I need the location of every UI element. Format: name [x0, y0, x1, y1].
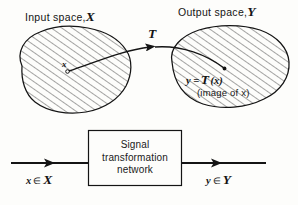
output-space-blob — [165, 18, 298, 116]
equation-lhs: y = — [186, 75, 199, 86]
output-equation: y =T(x) — [186, 71, 223, 88]
block-label-line-1: Signal — [121, 139, 150, 152]
image-of-caption: (image of x) — [197, 88, 250, 98]
block-label: Signal transformation network — [88, 130, 182, 186]
figure-canvas: Input space,X Output space,Y x T y =T(x)… — [0, 0, 298, 205]
input-space-blob — [10, 18, 140, 123]
equation-argument: (x) — [211, 75, 223, 86]
input-space-title-text: Input space, — [25, 11, 86, 23]
output-flow-variable: y — [206, 175, 211, 186]
block-label-line-3: network — [117, 164, 153, 177]
input-flow-label: x∈X — [26, 173, 52, 187]
mapping-operator-label: T — [148, 27, 156, 41]
equation-operator: T — [199, 72, 210, 87]
block-label-line-2: transformation — [102, 152, 168, 165]
input-point-marker — [66, 70, 70, 74]
input-space-title: Input space,X — [25, 10, 95, 24]
output-space-symbol: Y — [247, 4, 256, 19]
input-space-symbol: X — [86, 9, 95, 24]
output-space-title-text: Output space, — [178, 6, 247, 18]
output-flow-member-symbol: ∈ — [211, 176, 223, 186]
input-flow-member-symbol: ∈ — [31, 176, 43, 186]
input-flow-set: X — [43, 172, 52, 187]
output-flow-set: Y — [223, 172, 231, 187]
output-space-title: Output space,Y — [178, 5, 256, 19]
input-flow-arrow — [11, 159, 88, 168]
input-point-label: x — [62, 60, 67, 69]
output-flow-label: y∈Y — [206, 173, 231, 187]
output-flow-arrow — [182, 159, 266, 168]
